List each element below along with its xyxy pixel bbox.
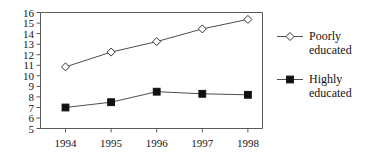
y-tick-label: 5 [29,123,35,135]
legend-label-highly-line2: educated [309,86,352,100]
y-axis: 16 15 14 13 12 11 [23,7,41,135]
line-chart: 16 15 14 13 12 11 [0,0,378,155]
data-point-marker [62,104,69,111]
x-tick-group: 1995 [100,129,123,150]
legend-label-poorly-line2: educated [309,43,352,57]
data-point-marker [107,48,115,56]
x-axis: 1994 1995 1996 1997 1998 [55,129,260,150]
x-tick-group: 1996 [146,129,169,150]
series-poorly-educated-markers [62,15,252,71]
data-point-marker [108,99,115,106]
x-tick-group: 1994 [55,129,78,150]
legend-label-highly-line1: Highly [309,72,342,86]
legend-item-poorly-educated: Poorly educated [277,29,352,57]
x-tick-group: 1997 [191,129,214,150]
data-point-marker [244,15,252,23]
filled-square-icon [287,76,294,83]
series-highly-educated-markers [62,88,251,111]
x-tick-label: 1994 [55,137,78,149]
data-point-marker [153,88,160,95]
series-poorly-educated [62,15,252,71]
data-point-marker [198,25,206,33]
series-highly-educated [62,88,251,111]
open-diamond-icon [286,33,294,41]
x-tick-group: 1998 [237,129,260,150]
data-point-marker [199,90,206,97]
legend-item-highly-educated: Highly educated [277,72,352,100]
x-tick-label: 1998 [237,137,260,149]
data-point-marker [62,63,70,71]
plot-frame [41,13,263,129]
y-tick-group: 5 [29,123,41,135]
chart-legend: Poorly educated Highly educated [277,29,352,100]
data-point-marker [245,91,252,98]
chart-figure: 16 15 14 13 12 11 [0,0,378,155]
legend-label-poorly-line1: Poorly [309,29,341,43]
x-tick-label: 1996 [146,137,169,149]
x-tick-label: 1995 [100,137,123,149]
data-point-marker [153,38,161,46]
x-tick-label: 1997 [191,137,214,149]
